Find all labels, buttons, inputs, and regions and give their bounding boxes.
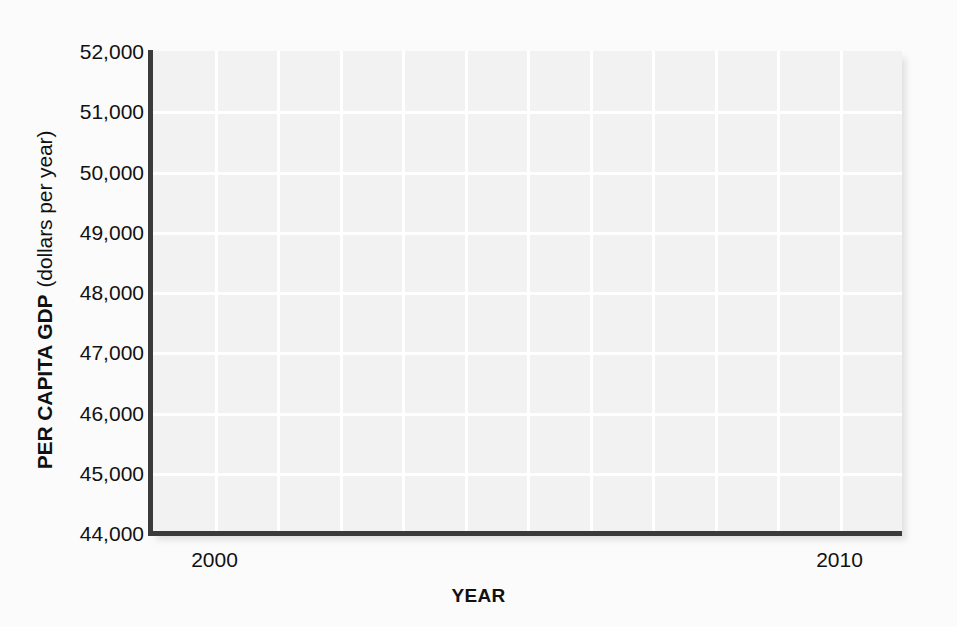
chart-figure: PER CAPITA GDP (dollars per year) 52,000… bbox=[0, 0, 957, 627]
y-axis-tick-label: 48,000 bbox=[58, 282, 144, 303]
y-axis-tick-label: 45,000 bbox=[58, 462, 144, 483]
y-axis-tick-label: 49,000 bbox=[58, 221, 144, 242]
y-axis-tick-label: 46,000 bbox=[58, 402, 144, 423]
y-axis-line bbox=[148, 50, 153, 536]
y-axis-tick-label: 51,000 bbox=[58, 101, 144, 122]
plot-area bbox=[152, 51, 902, 533]
horizontal-gridline bbox=[152, 232, 902, 235]
horizontal-gridline bbox=[152, 292, 902, 295]
x-axis-line bbox=[148, 531, 902, 536]
horizontal-gridline bbox=[152, 172, 902, 175]
y-axis-tick-label: 44,000 bbox=[58, 523, 144, 544]
y-axis-tick-label: 47,000 bbox=[58, 342, 144, 363]
y-axis-tick-label: 52,000 bbox=[58, 41, 144, 62]
y-axis-tick-labels: 52,00051,00050,00049,00048,00047,00046,0… bbox=[58, 0, 144, 627]
x-axis-title: YEAR bbox=[0, 585, 957, 607]
x-axis-tick-label: 2000 bbox=[191, 549, 238, 570]
horizontal-gridline bbox=[152, 352, 902, 355]
y-axis-title-strong: PER CAPITA GDP bbox=[34, 295, 55, 470]
horizontal-gridline bbox=[152, 473, 902, 476]
x-axis-tick-label: 2010 bbox=[816, 549, 863, 570]
horizontal-gridline bbox=[152, 413, 902, 416]
horizontal-gridline bbox=[152, 111, 902, 114]
y-axis-title-units: (dollars per year) bbox=[34, 131, 55, 288]
y-axis-tick-label: 50,000 bbox=[58, 161, 144, 182]
